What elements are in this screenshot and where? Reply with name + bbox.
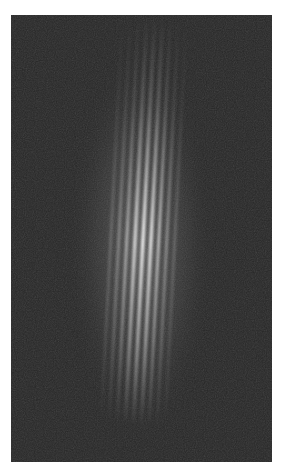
fringe-pattern	[11, 15, 272, 462]
interference-fringe-photo	[11, 15, 272, 462]
